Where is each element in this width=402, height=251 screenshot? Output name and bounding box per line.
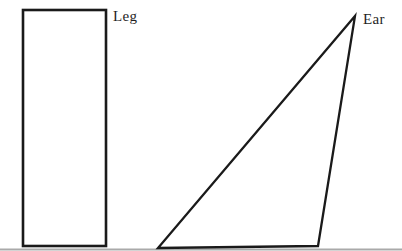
triangle-label: Ear (363, 11, 385, 27)
rectangle-shape (23, 10, 106, 246)
rectangle-label: Leg (113, 8, 137, 24)
triangle-shape (158, 16, 355, 248)
figure-svg: Leg Ear (0, 0, 402, 251)
geometry-figure: Leg Ear (0, 0, 402, 251)
